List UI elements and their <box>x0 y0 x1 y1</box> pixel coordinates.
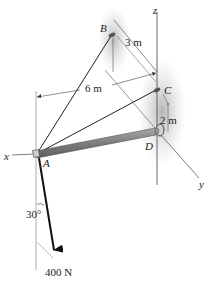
force-magnitude-label: 400 N <box>45 266 72 278</box>
y-axis-label: y <box>198 178 204 190</box>
point-a-label: A <box>42 157 50 169</box>
boom-ad <box>33 128 156 158</box>
point-c-label: C <box>164 84 172 96</box>
dimension-6m: 6 m <box>36 72 156 270</box>
x-axis: x <box>3 150 34 162</box>
x-axis-label: x <box>3 150 9 162</box>
force-angle-label: 30° <box>26 208 41 220</box>
cable-ab <box>38 36 111 152</box>
point-b-label: B <box>100 22 107 34</box>
dimension-label-2m: 2 m <box>160 114 177 126</box>
diagram-canvas: z y x 3 m 6 m <box>0 0 212 291</box>
z-axis-label: z <box>152 4 158 16</box>
point-d-label: D <box>144 140 153 152</box>
dimension-label-6m: 6 m <box>85 82 102 94</box>
force-400n: 30° 400 N <box>26 158 72 278</box>
dimension-label-3m: 3 m <box>125 36 142 48</box>
